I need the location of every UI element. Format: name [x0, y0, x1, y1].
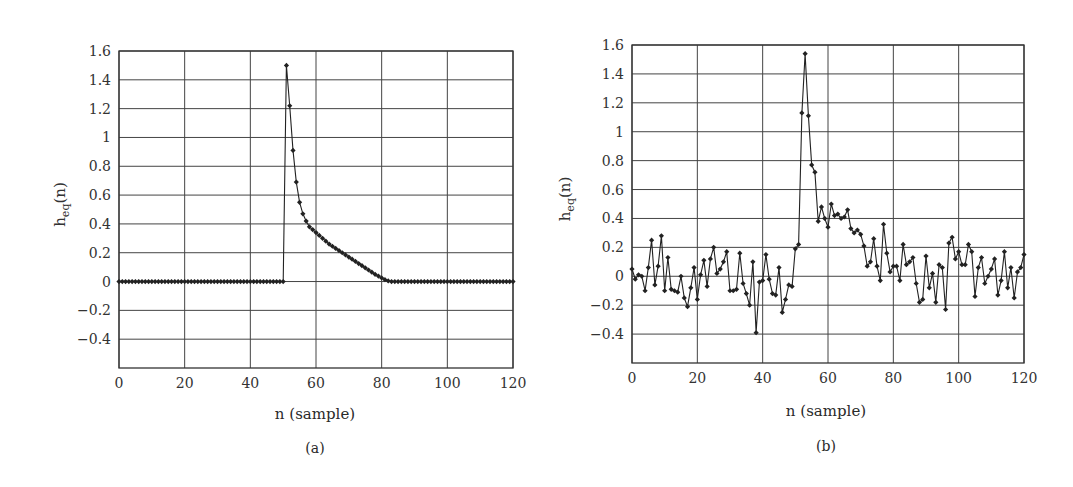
diamond-marker [750, 259, 755, 264]
diamond-marker [812, 170, 817, 175]
chart-panel-a: 1.61.41.210.80.60.40.20−0.2−0.4020406080… [0, 0, 540, 487]
x-tick-label: 60 [819, 370, 837, 386]
diamond-marker [803, 51, 808, 56]
diamond-marker [659, 233, 664, 238]
diamond-marker [923, 253, 928, 258]
chart-a-caption: (a) [215, 440, 415, 456]
y-tick-label: 0.2 [602, 239, 624, 255]
y-tick-label: 1 [615, 124, 624, 140]
chart-panel-b: 1.61.41.210.80.60.40.20−0.2−0.4020406080… [540, 0, 1073, 487]
x-tick-label: 80 [373, 375, 391, 391]
diamond-marker [874, 264, 879, 269]
diamond-marker [825, 225, 830, 230]
diamond-marker [819, 204, 824, 209]
diamond-marker [688, 285, 693, 290]
y-tick-label: 0.4 [89, 216, 111, 232]
diamond-marker [1002, 249, 1007, 254]
diamond-marker [300, 211, 305, 216]
diamond-marker [287, 103, 292, 108]
diamond-marker [744, 291, 749, 296]
diamond-marker [1021, 252, 1026, 257]
chart-b-caption: (b) [726, 438, 926, 454]
diamond-marker [933, 300, 938, 305]
diamond-marker [943, 307, 948, 312]
y-tick-label: −0.4 [77, 331, 111, 347]
chart-a-xlabel: n (sample) [215, 405, 415, 423]
diamond-marker [678, 274, 683, 279]
x-tick-label: 40 [754, 370, 772, 386]
x-tick-label: 80 [884, 370, 902, 386]
y-tick-label: 0.4 [602, 210, 624, 226]
y-tick-label: 0.6 [602, 182, 624, 198]
diamond-marker [1008, 265, 1013, 270]
y-axis-label: heq(n) [51, 182, 72, 227]
diamond-marker [656, 264, 661, 269]
diamond-marker [281, 279, 286, 284]
diamond-marker [887, 269, 892, 274]
diamond-marker [999, 278, 1004, 283]
diamond-marker [294, 180, 299, 185]
diamond-marker [894, 264, 899, 269]
diamond-marker [950, 235, 955, 240]
x-tick-label: 40 [241, 375, 259, 391]
diamond-marker [767, 277, 772, 282]
x-tick-label: 100 [945, 370, 972, 386]
diamond-marker [304, 218, 309, 223]
y-tick-label: −0.2 [77, 302, 111, 318]
y-tick-label: 1.2 [89, 101, 111, 117]
diamond-marker [816, 219, 821, 224]
diamond-marker [695, 297, 700, 302]
diamond-marker [776, 265, 781, 270]
diamond-marker [822, 216, 827, 221]
diamond-marker [969, 249, 974, 254]
diamond-marker [901, 242, 906, 247]
y-tick-label: 1.6 [89, 43, 111, 59]
diamond-marker [747, 303, 752, 308]
y-tick-label: 0.2 [89, 245, 111, 261]
y-tick-label: 0.8 [89, 158, 111, 174]
y-tick-label: −0.2 [590, 297, 624, 313]
diamond-marker [652, 282, 657, 287]
diamond-marker [871, 236, 876, 241]
diamond-marker [297, 200, 302, 205]
diamond-marker [946, 240, 951, 245]
x-tick-label: 120 [1011, 370, 1038, 386]
diamond-marker [985, 274, 990, 279]
x-tick-label: 100 [434, 375, 461, 391]
diamond-marker [884, 251, 889, 256]
diamond-marker [976, 265, 981, 270]
diamond-marker [705, 284, 710, 289]
y-tick-label: 0.8 [602, 153, 624, 169]
diamond-marker [966, 242, 971, 247]
diamond-marker [972, 294, 977, 299]
y-tick-label: 1.4 [602, 66, 624, 82]
x-tick-label: 0 [628, 370, 637, 386]
diamond-marker [806, 113, 811, 118]
diamond-marker [829, 201, 834, 206]
y-tick-label: 0 [615, 268, 624, 284]
diamond-marker [953, 256, 958, 261]
diamond-marker [845, 207, 850, 212]
diamond-marker [649, 238, 654, 243]
x-tick-label: 20 [688, 370, 706, 386]
diamond-marker [763, 252, 768, 257]
diamond-marker [783, 297, 788, 302]
diamond-marker [982, 281, 987, 286]
diamond-marker [284, 63, 289, 68]
diamond-marker [646, 265, 651, 270]
diamond-marker [897, 278, 902, 283]
y-tick-label: 1.4 [89, 72, 111, 88]
diamond-marker [701, 258, 706, 263]
x-tick-label: 60 [307, 375, 325, 391]
diamond-marker [662, 288, 667, 293]
y-tick-label: 1.2 [602, 95, 624, 111]
diamond-marker [642, 288, 647, 293]
x-tick-label: 120 [500, 375, 527, 391]
diamond-marker [881, 222, 886, 227]
x-tick-label: 20 [176, 375, 194, 391]
diamond-marker [724, 249, 729, 254]
y-tick-label: 1.6 [602, 37, 624, 53]
diamond-marker [809, 162, 814, 167]
grid [632, 45, 1024, 363]
diamond-marker [721, 259, 726, 264]
